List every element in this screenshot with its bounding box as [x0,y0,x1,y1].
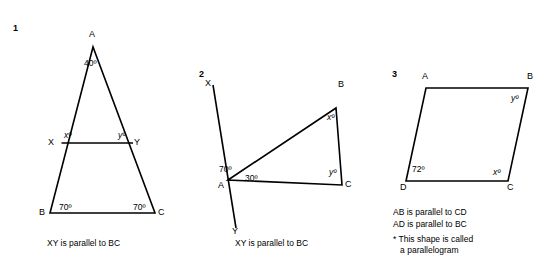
angle-label-3-b: yº [511,94,518,103]
figure-1-svg [0,0,200,240]
vertex-label-1-b: B [39,208,45,217]
angle-label-1-b: 70º [59,203,72,212]
vertex-label-2-a: A [218,181,224,190]
vertex-label-1-c: C [158,208,165,217]
footnote-3: * This shape is called a parallelogram [393,234,473,257]
line-xy [213,85,236,228]
worksheet-canvas: 1 A B C X Y 40º xº yº 70º 70º XY is para… [0,0,552,272]
vertex-label-1-y: Y [134,138,140,147]
note-3-line-1: AB is parallel to CD [393,207,467,218]
note-3-line-2: AD is parallel to BC [393,219,467,230]
figure-3 [380,0,552,240]
vertex-label-3-b: B [527,72,533,81]
angle-label-2-c: yº [329,168,336,177]
figure-2-svg [180,0,380,240]
vertex-label-2-x: X [205,79,211,88]
angle-label-3-c: xº [493,168,500,177]
figure-2 [180,0,380,240]
angle-label-2-b: xº [327,113,334,122]
angle-label-2-a-upper: 70º [219,165,232,174]
caption-2: XY is parallel to BC [235,238,308,249]
angle-label-3-d: 72º [412,165,425,174]
figure-3-svg [380,0,552,240]
vertex-label-3-c: C [507,183,514,192]
angle-label-1-c: 70º [133,203,146,212]
angle-label-1-y: yº [118,131,125,140]
angle-label-1-x: xº [64,131,71,140]
vertex-label-3-d: D [400,183,407,192]
vertex-label-1-a: A [89,30,95,39]
vertex-label-1-x: X [48,138,54,147]
angle-label-2-a-right: 30º [245,174,258,183]
vertex-label-2-b: B [338,80,344,89]
figure-1 [0,0,200,240]
vertex-label-3-a: A [422,72,428,81]
vertex-label-2-y: Y [232,227,238,236]
angle-label-1-a: 40º [84,59,97,68]
caption-1: XY is parallel to BC [47,238,120,249]
vertex-label-2-c: C [345,180,352,189]
